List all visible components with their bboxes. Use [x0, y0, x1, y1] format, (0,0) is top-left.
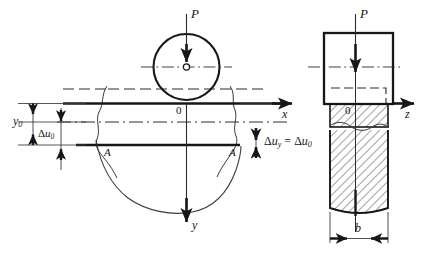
section-upper-block — [324, 33, 393, 104]
label-dimension-y0: y0 — [13, 115, 22, 129]
label-y0-subscript: 0 — [18, 120, 22, 129]
wheel-hub — [183, 64, 189, 70]
diagram-canvas — [0, 0, 433, 261]
equation-delta-2: Δ — [294, 134, 302, 148]
label-section-a-left: A — [104, 147, 111, 158]
label-dimension-delta-u0: Δu0 — [38, 128, 54, 140]
label-origin-left: 0 — [176, 105, 182, 116]
settlement-bowl-curve — [96, 140, 241, 213]
label-origin-right: 0 — [345, 105, 351, 116]
section-hatched-band-top — [330, 104, 388, 127]
equation-equals: = — [281, 134, 294, 148]
label-load-p-left: P — [191, 7, 199, 20]
equation-delta-1: Δ — [264, 134, 272, 148]
label-section-a-right: A — [229, 147, 236, 158]
label-axis-y: y — [192, 219, 197, 231]
wavy-break-line-left — [96, 86, 117, 178]
wavy-break-line-right — [217, 86, 237, 177]
label-axis-x: x — [282, 108, 287, 120]
section-hatched-column-lower — [330, 130, 388, 213]
label-dimension-b: b — [355, 222, 361, 234]
engineering-diagram: P P 0 0 y x z A A y0 Δu0 Δuy=Δu0 b — [0, 0, 433, 261]
label-du0-subscript: 0 — [51, 132, 55, 141]
equation-sub-0: 0 — [308, 140, 312, 149]
label-axis-z: z — [405, 108, 410, 120]
label-equation-delta-uy: Δuy=Δu0 — [264, 135, 312, 149]
label-load-p-right: P — [360, 7, 368, 20]
